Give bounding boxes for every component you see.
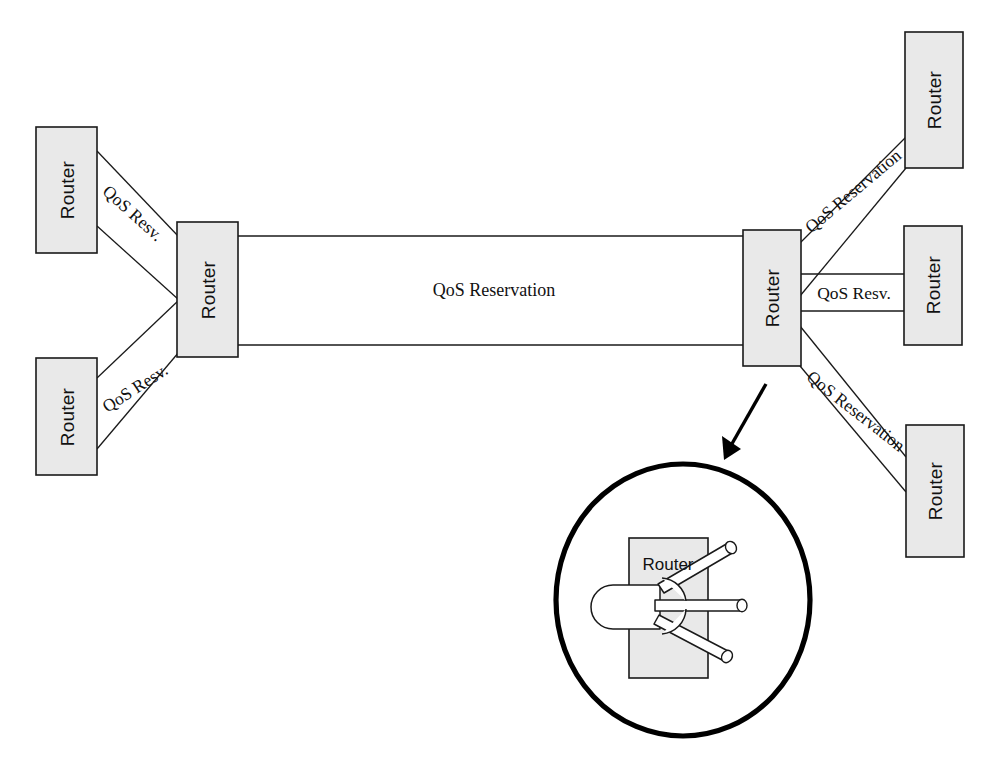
incoming-pipe (591, 585, 660, 629)
router-right-bottom[interactable]: Router (906, 425, 964, 557)
router-right-middle-label: Router (923, 255, 944, 314)
router-right-top[interactable]: Router (905, 32, 963, 168)
link-label-right-top: QoS Reservation (801, 145, 905, 237)
router-left-top[interactable]: Router (36, 127, 97, 253)
callout-arrow (722, 384, 766, 460)
router-hub-left-label: Router (198, 260, 219, 319)
link-label-left-bottom: QoS Resv. (99, 360, 172, 417)
link-label-right-bottom: QoS Reservation (803, 366, 909, 455)
router-hub-right[interactable]: Router (743, 230, 801, 366)
router-left-top-label: Router (57, 160, 78, 219)
router-left-bottom-label: Router (57, 387, 78, 446)
magnified-router-label: Router (642, 555, 693, 574)
router-right-middle[interactable]: Router (904, 226, 962, 345)
link-label-right-middle: QoS Resv. (817, 283, 891, 303)
router-hub-right-label: Router (762, 268, 783, 327)
network-diagram: Router Router Router Router Router Route… (0, 0, 1001, 766)
link-label-trunk: QoS Reservation (433, 280, 555, 300)
router-right-bottom-label: Router (925, 461, 946, 520)
router-hub-left[interactable]: Router (177, 222, 238, 357)
router-left-bottom[interactable]: Router (36, 358, 97, 475)
magnifier: Router (556, 464, 810, 736)
router-right-top-label: Router (924, 70, 945, 129)
diagram-canvas: Router Router Router Router Router Route… (0, 0, 1001, 766)
outgoing-pipe-middle (655, 599, 747, 611)
